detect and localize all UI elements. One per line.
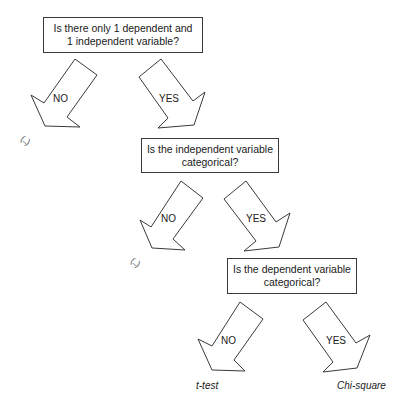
arrows-layer — [0, 0, 408, 412]
result-chi-square: Chi-square — [337, 380, 386, 391]
result-t-test: t-test — [196, 380, 218, 391]
branch-2-yes-label: YES — [246, 213, 266, 224]
branch-1-yes-label: YES — [159, 93, 179, 104]
branch-3-yes-label: YES — [326, 335, 346, 346]
branch-3-no-label: NO — [221, 335, 236, 346]
branch-1-no-label: NO — [53, 93, 68, 104]
branch-2-no-label: NO — [161, 213, 176, 224]
